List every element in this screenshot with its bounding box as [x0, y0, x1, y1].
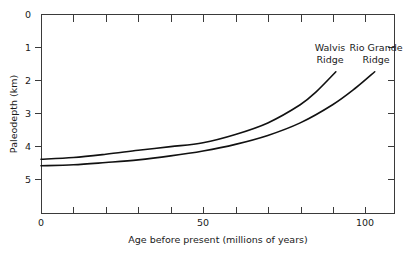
paleodepth-chart-figure: 0 50 100 0 1 2 3 4 5 Paleodepth (km) Age…: [0, 0, 418, 253]
top-axis-ticks: [74, 15, 366, 22]
y-tick-label-3: 3: [25, 108, 31, 119]
x-axis-title: Age before present (millions of years): [128, 234, 307, 245]
series-label-walvis-line2: Ridge: [316, 54, 343, 65]
y-tick-label-2: 2: [25, 75, 31, 86]
curve-walvis-ridge: [41, 72, 336, 159]
series-label-rio-grande-line1: Rio Grande: [349, 42, 402, 53]
series-label-walvis-line1: Walvis: [315, 42, 346, 53]
chart-canvas: 0 50 100 0 1 2 3 4 5 Paleodepth (km) Age…: [0, 0, 418, 253]
right-axis-ticks: [388, 48, 395, 180]
curve-rio-grande-ridge: [41, 72, 375, 166]
y-tick-label-5: 5: [25, 174, 31, 185]
x-tick-label-0: 0: [38, 217, 44, 228]
x-tick-label-100: 100: [356, 217, 374, 228]
series-group: [41, 72, 375, 166]
y-tick-label-4: 4: [25, 141, 31, 152]
y-tick-label-0: 0: [25, 9, 31, 20]
x-tick-label-50: 50: [197, 217, 209, 228]
y-axis-title: Paleodepth (km): [8, 75, 19, 153]
bottom-axis-ticks: [74, 207, 366, 214]
y-tick-label-1: 1: [25, 42, 31, 53]
series-label-rio-grande-line2: Ridge: [362, 54, 389, 65]
